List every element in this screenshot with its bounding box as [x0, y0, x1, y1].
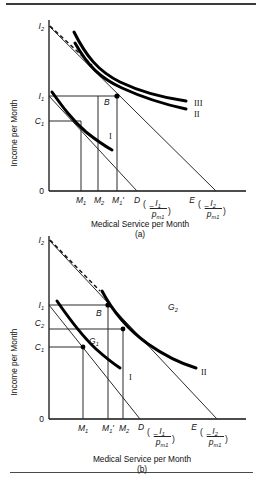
- panel-b-D-denominator: pm1: [155, 437, 169, 448]
- panel-b-ytick-I1: I1: [39, 300, 45, 311]
- panel-a-E-denominator: pm1: [206, 209, 220, 220]
- panel-b-x-axis-title: Medical Service per Month: [93, 454, 192, 464]
- panel-a-xtick-M1: M1: [76, 195, 86, 206]
- panel-b-D-paren-close: ): [172, 434, 175, 444]
- panel-a-D-numerator: I1: [155, 198, 161, 209]
- panel-a-xendpoint-D: D ( = I1 pm1 ): [134, 195, 171, 220]
- panel-b-E-denominator: pm1: [208, 437, 222, 448]
- panel-a-budget-line-D: [49, 96, 137, 191]
- panel-a-ytick-I1: I1: [39, 91, 45, 102]
- svg-text:D: D: [138, 422, 144, 432]
- panel-a-xtick-M1-prime: M1': [112, 195, 124, 206]
- svg-text:D: D: [134, 195, 140, 205]
- panel-b-y-axis-title: Income per Month: [9, 328, 19, 395]
- panel-a-E-paren-open: (: [198, 199, 201, 209]
- panel-a-x-axis-title: Medical Service per Month: [91, 219, 190, 229]
- panel-a-ytick-C1: C1: [35, 116, 44, 127]
- panel-b-label-B: B: [96, 308, 102, 318]
- panel-b-label-G1: G1: [89, 336, 99, 347]
- panel-b-xtick-M1-prime: M1': [102, 423, 114, 434]
- panel-a-point-B: [114, 93, 119, 98]
- panel-b-chart: Income per Month I2: [0, 234, 267, 480]
- panel-b-label-curve-II: II: [201, 367, 207, 377]
- panel-a-D-paren-open: (: [143, 199, 146, 209]
- panel-a-xendpoint-E: E ( = I2 pm1 ): [189, 195, 226, 220]
- panel-a-E-numerator: I2: [210, 198, 216, 209]
- panel-a-label-curve-I: I: [109, 131, 112, 141]
- svg-text:E: E: [191, 422, 197, 432]
- panel-b-ytick-C1: C1: [35, 342, 44, 353]
- panel-b-D-numerator: I1: [159, 426, 165, 437]
- panel-a-label-curve-II: II: [194, 109, 200, 119]
- panel-b-y-tick-labels: I2 I1 C2 C1 0: [35, 235, 45, 424]
- panel-b-E-paren-open: (: [200, 427, 203, 437]
- panel-b-E-numerator: I2: [212, 426, 218, 437]
- panel-a-y-axis-title: Income per Month: [9, 99, 19, 166]
- panel-a-chart: Income per Month I2: [0, 8, 267, 240]
- panel-b-x-tick-labels: M1 M1' M2: [78, 423, 130, 434]
- panel-b-label-G2: G2: [168, 302, 179, 313]
- panel-b-xendpoint-E: E ( = I2 pm1 ): [191, 422, 228, 448]
- panel-a-helper-lines: [49, 96, 117, 191]
- panel-a-label-B: B: [104, 97, 110, 107]
- panel-a-x-tick-labels: M1 M2 M1': [76, 195, 124, 206]
- panel-a-budget-line-E: [49, 26, 216, 191]
- panel-a-ytick-I2: I2: [39, 21, 45, 32]
- panel-b-origin-label: 0: [39, 414, 44, 424]
- panel-b-point-B: [105, 302, 110, 307]
- page-rule-top: [6, 3, 256, 5]
- panel-b-E-paren-close: ): [225, 434, 228, 444]
- figure-root: Income per Month I2: [0, 0, 267, 485]
- panel-b-xendpoint-D: D ( = I1 pm1 ): [138, 422, 175, 448]
- panel-a-y-tick-labels: I2 I1 C1 0: [35, 21, 45, 196]
- panel-a-D-paren-close: ): [168, 206, 171, 216]
- panel-b-point-G1: [81, 345, 86, 350]
- panel-b-D-paren-open: (: [147, 427, 150, 437]
- panel-a-origin-label: 0: [39, 186, 44, 196]
- panel-b-point-G2: [121, 327, 126, 332]
- panel-b-ytick-I2: I2: [39, 235, 45, 246]
- svg-text:E: E: [189, 195, 195, 205]
- panel-b-ytick-C2: C2: [35, 318, 45, 329]
- panel-a-label-curve-III: III: [194, 98, 203, 108]
- panel-b-xtick-M1: M1: [78, 423, 88, 434]
- panel-b-xtick-M2: M2: [119, 423, 130, 434]
- panel-b-curve-I: [57, 301, 120, 368]
- panel-b-label-curve-I: I: [129, 372, 132, 382]
- panel-b-caption: (b): [137, 464, 147, 474]
- panel-a-E-paren-close: ): [223, 206, 226, 216]
- panel-a-xtick-M2: M2: [94, 195, 105, 206]
- panel-b-dashed-segment: [50, 240, 100, 291]
